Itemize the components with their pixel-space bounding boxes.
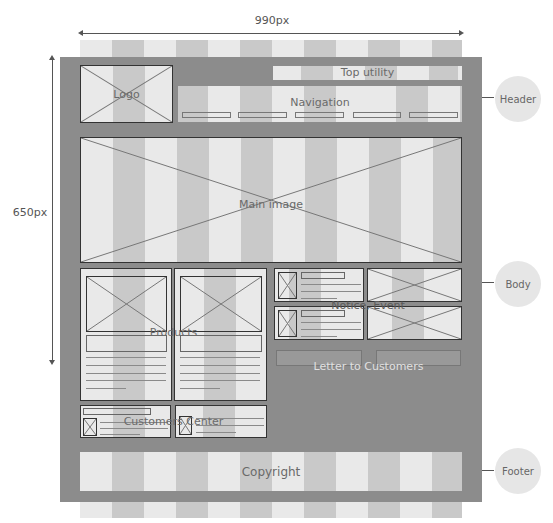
- text-line: [180, 357, 260, 358]
- logo-label: Logo: [81, 88, 172, 101]
- text-line: [180, 365, 260, 366]
- navigation-label: Navigation: [178, 96, 462, 109]
- top-utility-label: Top utility: [273, 66, 462, 80]
- notice-event-section: Notice, Event: [274, 268, 462, 340]
- text-line: [100, 434, 140, 435]
- section-footer-badge: Footer: [495, 448, 541, 494]
- customers-center-label: Customers Center: [80, 415, 267, 428]
- column-grid-bottom: [80, 502, 462, 518]
- text-line: [86, 373, 166, 374]
- event-banner[interactable]: [367, 268, 462, 302]
- text-line: [180, 373, 260, 374]
- notice-item[interactable]: [274, 268, 364, 302]
- text-line: [301, 329, 361, 330]
- top-utility: Top utility: [273, 66, 462, 80]
- logo-placeholder: Logo: [80, 65, 173, 123]
- image-placeholder-icon: [87, 277, 166, 331]
- text-line: [86, 365, 166, 366]
- main-image-label: Main image: [81, 198, 461, 211]
- product-image: [86, 276, 167, 332]
- letter-to-customers-label: Letter to Customers: [276, 360, 461, 373]
- column-grid-top: [80, 40, 462, 57]
- nav-item-5[interactable]: [409, 112, 458, 118]
- copyright-label: Copyright: [80, 465, 462, 479]
- body-arrow: [482, 282, 494, 283]
- text-line: [196, 432, 236, 433]
- nav-item-4[interactable]: [353, 112, 401, 118]
- text-line: [86, 388, 126, 389]
- products-label: Products: [80, 326, 267, 339]
- products-section: Products: [80, 268, 267, 401]
- nav-item-2[interactable]: [238, 112, 287, 118]
- notice-title-box: [301, 272, 345, 279]
- image-placeholder-icon: [279, 273, 296, 298]
- text-line: [301, 291, 361, 292]
- section-header-badge: Header: [495, 76, 541, 122]
- notice-thumbnail: [278, 310, 297, 337]
- product-image: [180, 276, 262, 332]
- notice-thumbnail: [278, 272, 297, 299]
- navigation: Navigation: [178, 86, 462, 122]
- nav-item-3[interactable]: [295, 112, 344, 118]
- text-line: [301, 284, 361, 285]
- customer-center-title-box: [83, 408, 151, 415]
- nav-item-1[interactable]: [182, 112, 231, 118]
- text-line: [180, 388, 220, 389]
- image-placeholder-icon: [279, 311, 296, 336]
- text-line: [301, 322, 361, 323]
- customers-center-section: Customers Center: [80, 405, 267, 438]
- text-line: [180, 380, 260, 381]
- width-dimension-arrow: [80, 33, 462, 34]
- width-dimension-label: 990px: [252, 14, 292, 27]
- letter-to-customers-section: Letter to Customers: [276, 350, 461, 380]
- image-placeholder-icon: [368, 269, 461, 301]
- copyright-footer: Copyright: [80, 452, 462, 491]
- header-arrow: [482, 97, 494, 98]
- text-line: [86, 357, 166, 358]
- height-dimension-label: 650px: [10, 206, 50, 219]
- height-dimension-arrow: [52, 57, 53, 363]
- footer-arrow: [482, 470, 494, 471]
- notice-event-label: Notice, Event: [274, 299, 462, 312]
- text-line: [301, 336, 337, 337]
- text-line: [100, 428, 168, 429]
- text-line: [86, 380, 166, 381]
- section-body-badge: Body: [495, 261, 541, 307]
- image-placeholder-icon: [181, 277, 261, 331]
- main-image-placeholder: Main image: [80, 137, 462, 263]
